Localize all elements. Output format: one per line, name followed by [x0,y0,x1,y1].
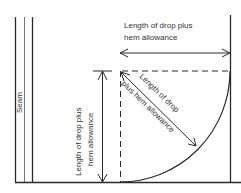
left-dimension-label-line1: Length of drop plus [74,108,83,177]
diagonal-dimension-line [122,73,196,146]
left-dimension-label-line2: hem allowance [86,112,95,166]
curtain-hem-diagram: Seam Length of drop plus hem allowance L… [0,0,241,193]
top-dimension-label-line1: Length of drop plus [124,21,193,30]
top-dimension-label-line2: hem allowance [124,33,178,42]
seam-label: Seam [15,92,24,113]
